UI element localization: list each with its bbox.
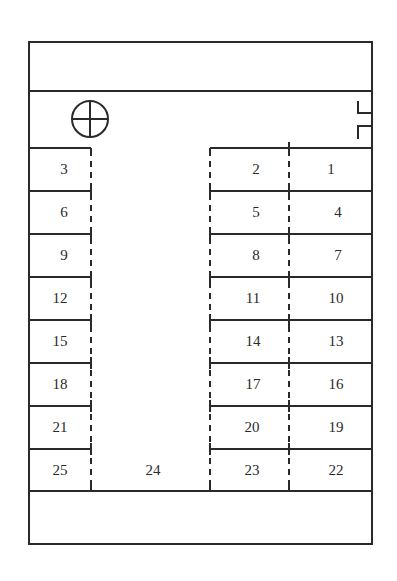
parking-stall-4: 4 (318, 204, 358, 220)
gate-icon (358, 101, 372, 139)
parking-stall-1: 1 (311, 161, 351, 177)
parking-stall-11: 11 (233, 290, 273, 306)
parking-stall-24: 24 (133, 462, 173, 478)
parking-stall-16: 16 (316, 376, 356, 392)
parking-stall-7: 7 (318, 247, 358, 263)
parking-stall-21: 21 (40, 419, 80, 435)
right-block-ticks (210, 142, 289, 491)
parking-stall-23: 23 (232, 462, 272, 478)
parking-stall-13: 13 (316, 333, 356, 349)
parking-stall-9: 9 (44, 247, 84, 263)
parking-stall-17: 17 (233, 376, 273, 392)
parking-stall-14: 14 (233, 333, 273, 349)
parking-stall-8: 8 (236, 247, 276, 263)
parking-stall-3: 3 (44, 161, 84, 177)
parking-stall-5: 5 (236, 204, 276, 220)
parking-stall-10: 10 (316, 290, 356, 306)
parking-stall-6: 6 (44, 204, 84, 220)
parking-stall-22: 22 (316, 462, 356, 478)
parking-stall-19: 19 (316, 419, 356, 435)
parking-stall-18: 18 (40, 376, 80, 392)
parking-stall-15: 15 (40, 333, 80, 349)
parking-stall-25: 25 (40, 462, 80, 478)
parking-stall-20: 20 (232, 419, 272, 435)
circle-with-cross-icon (72, 101, 108, 137)
parking-stall-2: 2 (236, 161, 276, 177)
parking-stall-12: 12 (40, 290, 80, 306)
